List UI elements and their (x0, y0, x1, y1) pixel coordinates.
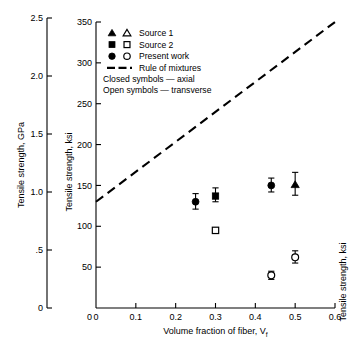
data-point (192, 198, 199, 205)
gpa-tick-label: 2.0 (30, 71, 43, 81)
y-axis-title-right: Tensile strength, ksi (338, 242, 348, 321)
ksi-tick-label: 150 (77, 181, 92, 191)
gpa-tick-label: 2.5 (30, 13, 43, 23)
ksi-tick-label: 50 (82, 262, 92, 272)
chart-svg: 0.51.01.52.02.5 050100150200250300350 00… (0, 0, 356, 342)
x-axis-title: Volume fraction of fiber, Vf (163, 326, 268, 338)
gpa-tick-label: 1.0 (30, 187, 43, 197)
legend-label: Source 1 (139, 28, 174, 38)
legend-closed-marker (109, 53, 115, 59)
ksi-tick-label: 100 (77, 221, 92, 231)
x-tick-label: 0.4 (249, 312, 262, 322)
y-axis-title-gpa: Tensile strength, GPa (16, 122, 26, 208)
legend-label: Rule of mixtures (139, 63, 201, 73)
x-tick-label: 0.1 (130, 312, 143, 322)
x-tick-label: 0.2 (169, 312, 182, 322)
gpa-tick-label: 1.5 (30, 129, 43, 139)
data-point (268, 182, 275, 189)
legend-note: Open symbols — transverse (103, 85, 212, 95)
ksi-tick-label: 300 (77, 58, 92, 68)
legend-label: Present work (139, 51, 190, 61)
ksi-tick-label: 350 (77, 17, 92, 27)
x-tick-label: 0.5 (289, 312, 302, 322)
data-point (268, 272, 275, 279)
ksi-tick-label: 200 (77, 140, 92, 150)
chart-figure: 0.51.01.52.02.5 050100150200250300350 00… (0, 0, 356, 342)
x-tick-label: 0 (93, 312, 98, 322)
ksi-tick-label: 250 (77, 99, 92, 109)
ksi-tick-label: 0 (87, 312, 92, 322)
x-axis-title-subscript: f (266, 331, 268, 338)
data-point (212, 227, 218, 233)
gpa-tick-label: .5 (35, 245, 43, 255)
legend-label: Source 2 (139, 40, 174, 50)
data-point (212, 193, 218, 199)
x-tick-label: 0.3 (209, 312, 222, 322)
y-axis-title-ksi: Tensile strength, ksi (64, 132, 74, 211)
data-point (292, 254, 299, 261)
legend-open-marker (124, 53, 130, 59)
legend-closed-marker (109, 42, 115, 48)
legend-open-marker (124, 42, 130, 48)
legend-note: Closed symbols — axial (103, 74, 195, 84)
gpa-tick-label: 0 (38, 303, 43, 313)
